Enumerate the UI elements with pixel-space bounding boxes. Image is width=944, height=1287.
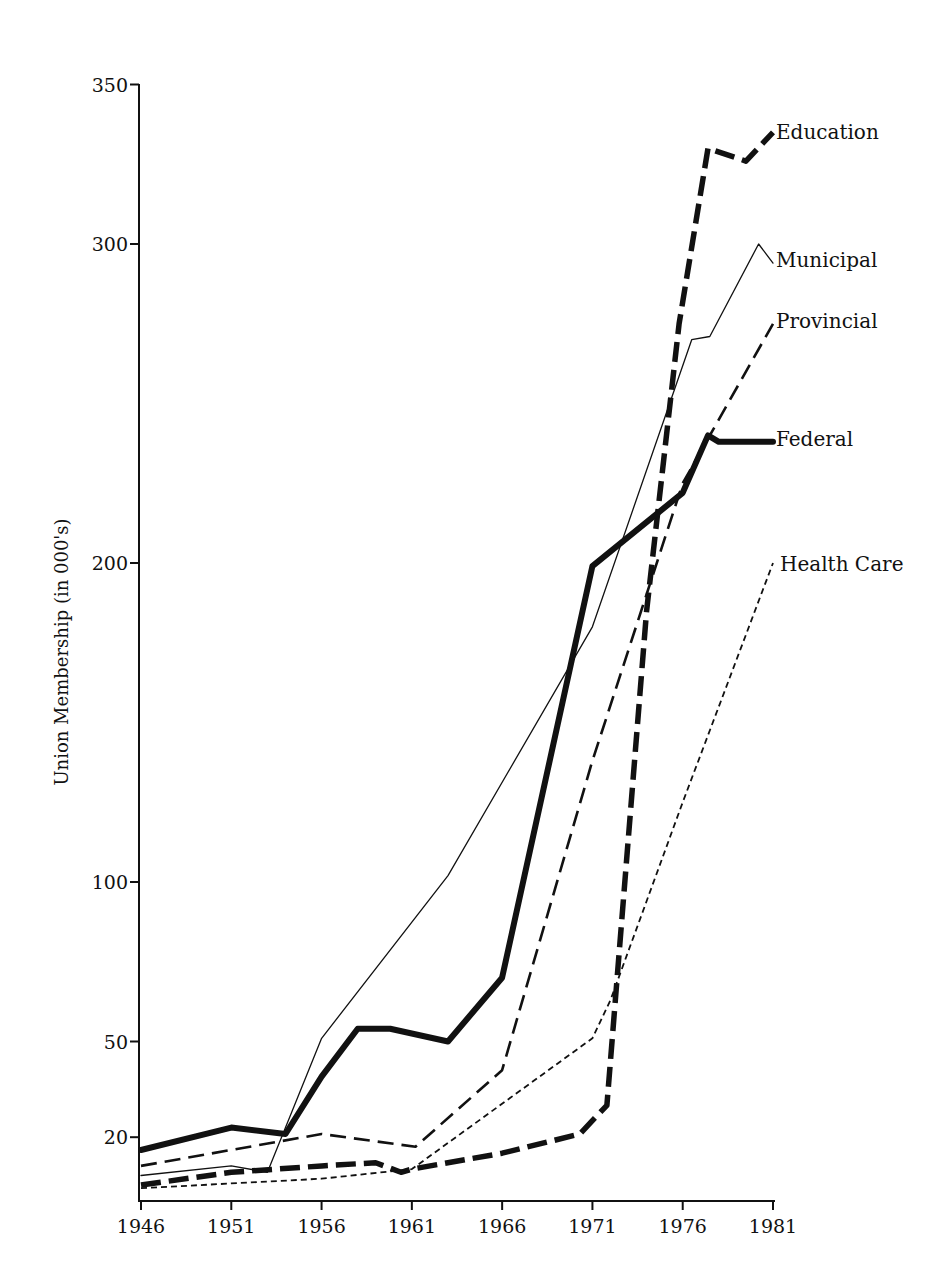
x-tick-label: 1951 (207, 1215, 255, 1237)
x-tick-label: 1981 (749, 1215, 797, 1237)
y-tick-label: 350 (92, 74, 128, 96)
series-label-health-care: Health Care (780, 552, 904, 576)
line-chart: 2050100200300350 Union Membership (in 00… (0, 0, 944, 1287)
x-tick-label: 1971 (568, 1215, 616, 1237)
series-label-provincial: Provincial (776, 309, 878, 333)
x-tick-label: 1966 (478, 1215, 526, 1237)
series-line-provincial (141, 324, 773, 1166)
y-axis-title: Union Membership (in 000's) (51, 518, 72, 785)
y-tick-label: 20 (104, 1126, 128, 1148)
y-tick-label: 50 (104, 1031, 128, 1053)
y-tick-label: 300 (92, 233, 128, 255)
series-label-federal: Federal (776, 427, 853, 451)
series-label-education: Education (776, 120, 879, 144)
series-line-municipal (141, 244, 773, 1176)
y-tick-label: 100 (92, 871, 128, 893)
series-group (141, 132, 773, 1188)
series-label-municipal: Municipal (776, 248, 877, 272)
series-line-federal (141, 435, 773, 1150)
series-labels: Education Municipal Provincial Federal H… (776, 120, 904, 576)
x-tick-label: 1946 (117, 1215, 165, 1237)
y-axis: 2050100200300350 Union Membership (in 00… (51, 74, 139, 1202)
x-tick-label: 1976 (659, 1215, 707, 1237)
x-tick-label: 1956 (297, 1215, 345, 1237)
x-tick-label: 1961 (388, 1215, 436, 1237)
y-tick-label: 200 (92, 552, 128, 574)
x-axis: 19461951195619611966197119761981 (117, 1201, 797, 1237)
series-line-health-care (141, 563, 773, 1188)
